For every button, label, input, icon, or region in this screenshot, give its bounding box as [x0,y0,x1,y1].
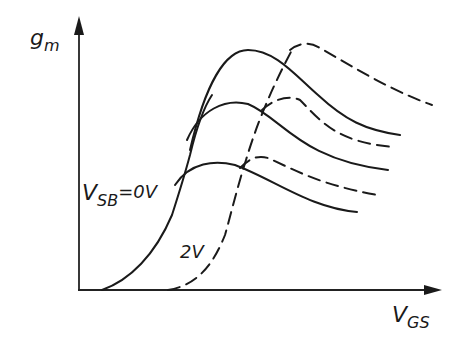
x-axis-arrow-icon [424,285,442,295]
vsb-annotation: VSB=0V [82,180,159,210]
solid-curve-high [190,50,400,150]
dashed-curves-vsb-2v [168,44,432,290]
dashed-curve-high [290,44,432,105]
solid-curve-mid [187,103,388,171]
y-axis-label: gm [30,25,60,55]
solid-curves-vsb-0v [102,50,400,290]
x-axis-label: VGS [392,302,430,332]
dashed-curve-mid [262,98,393,147]
gm-vs-vgs-diagram: gm VGS VSB=0V 2V [0,0,472,346]
y-axis-arrow-icon [74,16,84,35]
v2-annotation: 2V [180,241,205,262]
axes [74,16,442,295]
solid-curve-low [175,163,357,212]
